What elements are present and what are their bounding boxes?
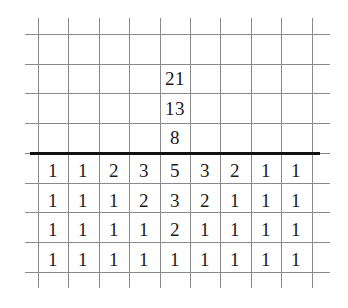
table-cell-r4-c7: 1 <box>220 244 250 274</box>
table-cell-r2-c6: 2 <box>190 185 220 215</box>
table-cell-r4-c8: 1 <box>251 244 281 274</box>
table-cell-r1-c5: 5 <box>160 155 190 185</box>
table-cell-r4-c1: 1 <box>38 244 68 274</box>
table-cell-r1-c1: 1 <box>38 155 68 185</box>
table-cell-r2-c1: 1 <box>38 185 68 215</box>
table-cell-r2-c9: 1 <box>281 185 311 215</box>
table-cell-r4-c5: 1 <box>160 244 190 274</box>
table-cell-r4-c6: 1 <box>190 244 220 274</box>
table-cell-r3-c3: 1 <box>99 214 129 244</box>
table-cell-r1-c8: 1 <box>251 155 281 185</box>
table-cell-r1-c4: 3 <box>129 155 159 185</box>
table-cell-r4-c3: 1 <box>99 244 129 274</box>
table-cell-r3-c8: 1 <box>251 214 281 244</box>
table-cell-r2-c4: 2 <box>129 185 159 215</box>
table-cell-r1-c9: 1 <box>281 155 311 185</box>
table-cell-r1-c7: 2 <box>220 155 250 185</box>
stacked-value-2: 13 <box>160 93 190 123</box>
table-cell-r4-c9: 1 <box>281 244 311 274</box>
table-cell-r3-c2: 1 <box>68 214 98 244</box>
table-cell-r4-c2: 1 <box>68 244 98 274</box>
table-cell-r2-c5: 3 <box>160 185 190 215</box>
table-cell-r3-c1: 1 <box>38 214 68 244</box>
table-cell-r2-c8: 1 <box>251 185 281 215</box>
table-cell-r3-c7: 1 <box>220 214 250 244</box>
table-cell-r4-c4: 1 <box>129 244 159 274</box>
stacked-value-3: 8 <box>160 122 190 152</box>
table-cell-r2-c7: 1 <box>220 185 250 215</box>
stacked-value-1: 21 <box>160 63 190 93</box>
table-cell-r3-c5: 2 <box>160 214 190 244</box>
table-cell-r3-c4: 1 <box>129 214 159 244</box>
table-cell-r2-c3: 1 <box>99 185 129 215</box>
table-cell-r3-c9: 1 <box>281 214 311 244</box>
table-cell-r1-c2: 1 <box>68 155 98 185</box>
fibonacci-grid-figure: 1123532111112321111111211111111111112113… <box>0 0 348 308</box>
table-cell-r2-c2: 1 <box>68 185 98 215</box>
grid-horizontal-line-1 <box>25 34 330 35</box>
table-cell-r1-c3: 2 <box>99 155 129 185</box>
table-cell-r1-c6: 3 <box>190 155 220 185</box>
table-cell-r3-c6: 1 <box>190 214 220 244</box>
